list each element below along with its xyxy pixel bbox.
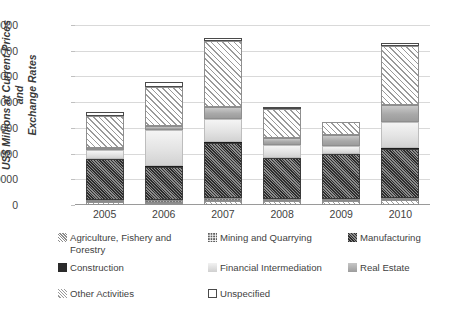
bar-segment[interactable]	[381, 149, 419, 198]
agriculture-swatch-icon	[58, 233, 67, 242]
bar-segment[interactable]	[322, 201, 360, 205]
bar-segment[interactable]	[322, 154, 360, 199]
gridline	[75, 128, 430, 129]
bar-segment[interactable]	[263, 199, 301, 201]
x-axis-tick-label: 2006	[134, 208, 194, 220]
bar-segment[interactable]	[145, 130, 183, 167]
bar-stack-2005[interactable]	[86, 25, 124, 205]
legend-item[interactable]: Real Estate	[348, 262, 451, 274]
y-axis-title: US$ Millions at Current Prices and Excha…	[0, 10, 39, 180]
bar-segment[interactable]	[145, 87, 183, 127]
bar-segment[interactable]	[263, 158, 301, 199]
y-axis-title-line1: US$ Millions at Current Prices and	[0, 10, 26, 180]
bar-segment[interactable]	[263, 107, 301, 109]
other-activities-swatch-icon	[58, 289, 67, 298]
bar-segment[interactable]	[86, 200, 124, 202]
bar-segment[interactable]	[204, 41, 242, 107]
manufacturing-swatch-icon	[348, 233, 357, 242]
gridline	[75, 51, 430, 52]
plot-area	[75, 25, 430, 205]
legend-item[interactable]: Mining and Quarrying	[208, 232, 353, 244]
bar-segment[interactable]	[322, 199, 360, 201]
construction-swatch-icon	[58, 263, 67, 272]
x-axis-line	[75, 204, 430, 205]
bar-segment[interactable]	[86, 159, 124, 200]
bar-stack-2008[interactable]	[263, 25, 301, 205]
legend-item-label: Other Activities	[70, 288, 134, 300]
legend-item-label: Agriculture, Fishery andForestry	[70, 232, 171, 256]
bar-segment[interactable]	[381, 198, 419, 200]
legend-item[interactable]: Unspecified	[208, 288, 353, 300]
bar-segment[interactable]	[204, 38, 242, 41]
financial-swatch-icon	[208, 263, 217, 272]
legend-item-label: Construction	[70, 262, 124, 274]
gridline	[75, 179, 430, 180]
bar-segment[interactable]	[263, 145, 301, 157]
bar-stack-2006[interactable]	[145, 25, 183, 205]
bar-segment[interactable]	[263, 109, 301, 138]
bar-segment[interactable]	[86, 116, 124, 148]
bar-segment[interactable]	[322, 146, 360, 153]
bar-segment[interactable]	[322, 122, 360, 135]
bar-segment[interactable]	[204, 198, 242, 200]
bar-segment[interactable]	[86, 112, 124, 116]
y-axis-tick-mark	[71, 205, 75, 206]
bar-segment[interactable]	[145, 126, 183, 130]
mining-swatch-icon	[208, 233, 217, 242]
bar-segment[interactable]	[381, 200, 419, 205]
y-axis-title-line2: Exchange Rates	[26, 10, 39, 180]
gridline	[75, 76, 430, 77]
gridline	[75, 154, 430, 155]
y-axis-tick-label: 0	[0, 200, 18, 211]
unspecified-swatch-icon	[208, 289, 217, 298]
x-axis-tick-label: 2008	[252, 208, 312, 220]
gridline	[75, 25, 430, 26]
bar-segment[interactable]	[263, 138, 301, 146]
bar-stack-2010[interactable]	[381, 25, 419, 205]
bar-segment[interactable]	[204, 143, 242, 199]
x-axis-tick-label: 2010	[370, 208, 430, 220]
legend-item-label: Financial Intermediation	[220, 262, 322, 274]
legend-item[interactable]: Manufacturing	[348, 232, 451, 244]
bar-segment[interactable]	[381, 46, 419, 105]
bar-segment[interactable]	[86, 148, 124, 150]
chart-legend: Agriculture, Fishery andForestryMining a…	[58, 232, 443, 316]
bar-segment[interactable]	[381, 105, 419, 122]
x-axis-tick-label: 2007	[193, 208, 253, 220]
bar-segment[interactable]	[381, 43, 419, 46]
bar-segment[interactable]	[86, 202, 124, 205]
bar-stack-2009[interactable]	[322, 25, 360, 205]
x-axis-tick-label: 2005	[75, 208, 135, 220]
real-estate-swatch-icon	[348, 263, 357, 272]
bar-segment[interactable]	[145, 200, 183, 202]
gridline	[75, 102, 430, 103]
bar-segment[interactable]	[204, 119, 242, 142]
stacked-bar-chart: US$ Millions at Current Prices and Excha…	[0, 0, 451, 320]
bar-segment[interactable]	[86, 150, 124, 159]
x-axis-tick-label: 2009	[311, 208, 371, 220]
bar-segment[interactable]	[145, 82, 183, 87]
legend-item-label: Manufacturing	[360, 232, 421, 244]
bar-segment[interactable]	[322, 135, 360, 146]
legend-item[interactable]: Financial Intermediation	[208, 262, 353, 274]
bar-segment[interactable]	[204, 201, 242, 205]
legend-item-label: Mining and Quarrying	[220, 232, 312, 244]
bar-segment[interactable]	[263, 201, 301, 205]
legend-item[interactable]: Construction	[58, 262, 203, 274]
bar-segment[interactable]	[145, 167, 183, 200]
bar-stack-2007[interactable]	[204, 25, 242, 205]
bar-segment[interactable]	[145, 203, 183, 205]
legend-item-label: Real Estate	[360, 262, 410, 274]
bar-segment[interactable]	[204, 107, 242, 119]
bar-segment[interactable]	[381, 122, 419, 148]
legend-item-label: Unspecified	[220, 288, 270, 300]
legend-item[interactable]: Other Activities	[58, 288, 203, 300]
legend-item[interactable]: Agriculture, Fishery andForestry	[58, 232, 203, 256]
